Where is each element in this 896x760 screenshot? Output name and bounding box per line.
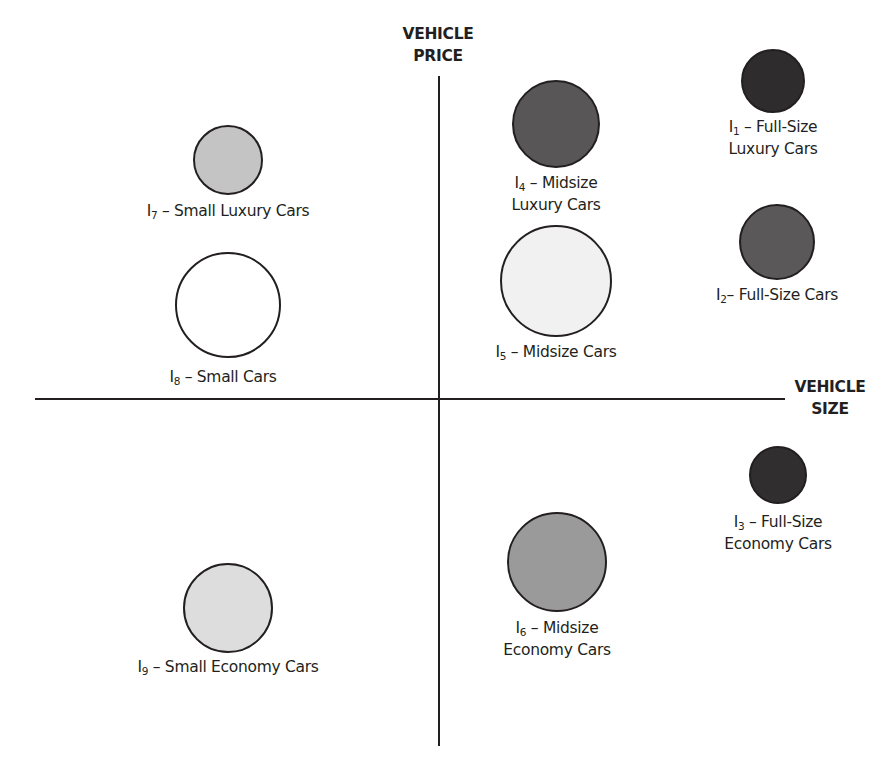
segment-bubble-i8 bbox=[175, 252, 281, 358]
segment-bubble-i2 bbox=[739, 204, 815, 280]
segment-label-i2: I2– Full-Size Cars bbox=[677, 284, 877, 306]
segment-bubble-i7 bbox=[193, 125, 263, 195]
segment-bubble-i3 bbox=[749, 446, 807, 504]
segment-bubble-i6 bbox=[507, 512, 607, 612]
y-axis-line bbox=[438, 76, 440, 746]
x-axis-label: VEHICLE SIZE bbox=[780, 376, 880, 420]
segment-label-i6: I6 – MidsizeEconomy Cars bbox=[477, 617, 637, 661]
segment-label-i8: I8 – Small Cars bbox=[123, 366, 323, 388]
segment-label-i9: I9 – Small Economy Cars bbox=[98, 656, 358, 678]
segment-bubble-i1 bbox=[741, 49, 805, 113]
segment-bubble-i5 bbox=[500, 225, 612, 337]
segment-label-i3: I3 – Full-SizeEconomy Cars bbox=[698, 511, 858, 555]
segment-label-i4: I4 – MidsizeLuxury Cars bbox=[476, 172, 636, 216]
segment-bubble-i9 bbox=[183, 563, 273, 653]
segment-label-i7: I7 – Small Luxury Cars bbox=[108, 200, 348, 222]
segment-bubble-i4 bbox=[512, 80, 600, 168]
x-axis-line bbox=[35, 398, 785, 400]
segment-label-i5: I5 – Midsize Cars bbox=[456, 341, 656, 363]
y-axis-label: VEHICLE PRICE bbox=[388, 23, 488, 67]
segment-label-i1: I1 – Full-SizeLuxury Cars bbox=[693, 116, 853, 160]
